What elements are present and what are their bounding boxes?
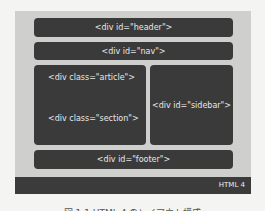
section-label: <div class="section"> (48, 114, 139, 123)
nav-box: <div id="nav"> (34, 42, 233, 60)
article-box: <div class="article"> <div class="sectio… (34, 65, 146, 145)
sidebar-label: <div id="sidebar"> (152, 101, 231, 110)
article-label: <div class="article"> (48, 73, 135, 82)
footer-box: <div id="footer"> (34, 150, 233, 169)
sidebar-box: <div id="sidebar"> (150, 65, 233, 145)
nav-label: <div id="nav"> (101, 47, 165, 56)
figure-caption: 図 1.1 HTML 4 のレイアウト構成 (0, 206, 265, 211)
version-bar: HTML 4 (15, 177, 251, 194)
version-label: HTML 4 (219, 181, 245, 189)
footer-label: <div id="footer"> (97, 155, 170, 164)
header-box: <div id="header"> (34, 18, 233, 37)
header-label: <div id="header"> (95, 23, 173, 32)
